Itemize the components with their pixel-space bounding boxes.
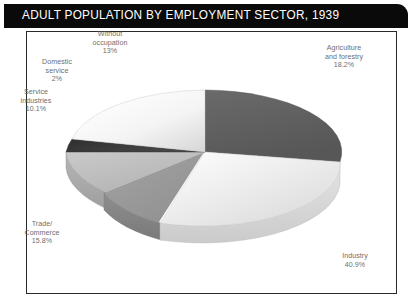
slice-label-agriculture-and-forestry: Agriculture and forestry 18.2% xyxy=(296,44,392,70)
slice-top-agriculture-and-forestry xyxy=(205,90,342,162)
slice-label-service-industries: Service industries 10.1% xyxy=(4,88,68,114)
slice-label-domestic-service: Domestic service 2% xyxy=(22,58,92,84)
slice-label-industry: Industry 40.9% xyxy=(318,252,392,269)
slice-label-trade-commerce: Trade/ Commerce 15.8% xyxy=(6,220,78,246)
chart-figure: ADULT POPULATION BY EMPLOYMENT SECTOR, 1… xyxy=(0,0,408,304)
slice-label-without-occupation: Without occupation 13% xyxy=(72,30,148,56)
